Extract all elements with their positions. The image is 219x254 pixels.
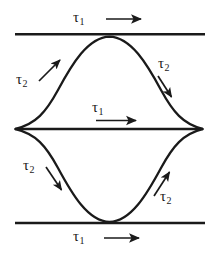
tau1-top-label: τ1 [73,10,85,27]
tau-subscript: 1 [98,106,104,117]
tau2-upper-left-arrow-icon [39,60,60,81]
upper-bulge-curve [16,37,203,129]
tau-subscript: 2 [166,195,172,206]
tau-subscript: 1 [79,235,85,246]
tau2-lower-right-label: τ2 [160,189,172,206]
shear-stress-diagram: τ1 τ2 τ2 τ1 τ2 τ2 τ1 [0,0,219,254]
lower-bulge-curve [16,129,203,222]
tau1-middle-label: τ1 [92,100,104,117]
diagram-canvas [0,0,219,254]
tau2-lower-left-label: τ2 [23,158,35,175]
tau-subscript: 2 [22,78,28,89]
tau2-upper-right-label: τ2 [158,56,170,73]
tau-subscript: 2 [164,62,170,73]
tau-subscript: 2 [29,164,35,175]
tau1-bottom-label: τ1 [73,229,85,246]
tau-subscript: 1 [79,16,85,27]
tau2-upper-left-label: τ2 [16,72,28,89]
